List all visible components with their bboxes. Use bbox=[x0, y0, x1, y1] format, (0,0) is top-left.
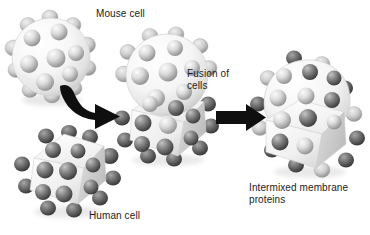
fusion-arrow-2 bbox=[216, 104, 268, 132]
intermixed-proteins-label: Intermixed membrane proteins bbox=[249, 182, 348, 205]
fusion-arrow-1 bbox=[58, 82, 136, 136]
human-cell bbox=[12, 124, 124, 220]
human-cell-label: Human cell bbox=[89, 210, 140, 222]
cell-fusion-figure: Mouse cell bbox=[0, 0, 370, 235]
fusion-of-cells-label: Fusion of cells bbox=[187, 68, 229, 91]
mouse-cell-label: Mouse cell bbox=[96, 8, 145, 20]
